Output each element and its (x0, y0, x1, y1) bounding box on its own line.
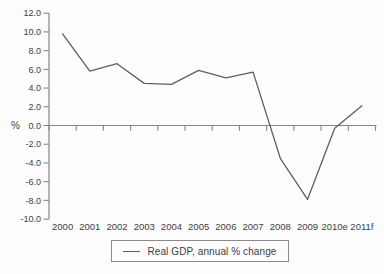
y-axis-title: % (11, 120, 20, 131)
y-tick-label: 0.0 (28, 121, 41, 131)
x-tick-label: 2003 (134, 221, 155, 232)
y-tick-label: -2.0 (25, 139, 41, 149)
x-tick-label: 2009 (297, 221, 318, 232)
y-tick-label: 2.0 (28, 102, 41, 112)
real-gdp-line-chart: 12.010.08.06.04.02.00.0-2.0-4.0-6.0-8.0-… (0, 0, 384, 274)
chart-plot-area: 12.010.08.06.04.02.00.0-2.0-4.0-6.0-8.0-… (0, 0, 384, 274)
x-tick-label: 2010e (321, 221, 347, 232)
x-tick-label: 2007 (242, 221, 263, 232)
y-tick-label: 6.0 (28, 65, 41, 75)
x-tick-label: 2000 (52, 221, 73, 232)
legend-line-sample-icon (123, 251, 140, 252)
y-tick-label: 12.0 (23, 8, 41, 18)
x-tick-label: 2008 (270, 221, 291, 232)
x-tick-label: 2011f (350, 221, 373, 232)
y-tick-label: 4.0 (28, 83, 41, 93)
y-tick-label: -8.0 (25, 196, 41, 206)
legend-box: Real GDP, annual % change (111, 240, 289, 262)
y-tick-label: -10.0 (20, 214, 41, 224)
gdp-series-line (63, 34, 362, 200)
x-tick-label: 2006 (215, 221, 236, 232)
x-tick-label: 2004 (161, 221, 182, 232)
y-tick-label: 10.0 (23, 27, 41, 37)
x-tick-label: 2005 (188, 221, 209, 232)
y-tick-label: -6.0 (25, 177, 41, 187)
y-tick-label: -4.0 (25, 158, 41, 168)
x-tick-label: 2002 (106, 221, 127, 232)
y-tick-label: 8.0 (28, 46, 41, 56)
x-tick-label: 2001 (79, 221, 100, 232)
legend-label: Real GDP, annual % change (147, 246, 276, 257)
